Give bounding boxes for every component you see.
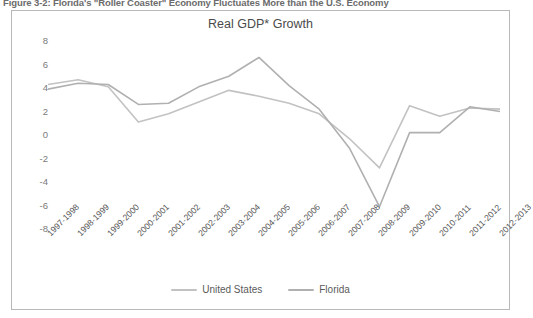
y-axis-tick: 4 [26, 83, 48, 93]
y-axis-tick: 2 [26, 107, 48, 117]
y-axis-tick: 0 [26, 130, 48, 140]
legend-item[interactable]: Florida [288, 284, 350, 295]
legend-label: Florida [319, 284, 350, 295]
legend-item[interactable]: United States [171, 284, 262, 295]
figure-caption: Figure 3-2: Florida's "Roller Coaster" E… [3, 0, 528, 9]
legend-swatch-icon [171, 289, 197, 291]
y-axis-tick: 8 [26, 36, 48, 46]
y-axis: 86420-2-4-6-8 [26, 37, 48, 233]
legend-label: United States [202, 284, 262, 295]
plot-svg [48, 41, 500, 229]
x-axis: 1997-19981998-19991999-20002000-20012001… [48, 231, 500, 287]
y-axis-tick: -8 [26, 224, 48, 234]
series-line-florida [48, 57, 500, 206]
x-axis-tick: 2012-2013 [497, 202, 533, 238]
y-axis-tick: 6 [26, 60, 48, 70]
series-line-united-states [48, 80, 500, 168]
plot-area [48, 41, 500, 229]
legend-swatch-icon [288, 289, 314, 291]
chart-legend: United StatesFlorida [12, 284, 509, 295]
chart-title: Real GDP* Growth [12, 17, 509, 31]
y-axis-tick: -2 [26, 154, 48, 164]
y-axis-tick: -4 [26, 177, 48, 187]
chart-frame: Real GDP* Growth 86420-2-4-6-8 1997-1998… [11, 10, 510, 310]
y-axis-tick: -6 [26, 201, 48, 211]
